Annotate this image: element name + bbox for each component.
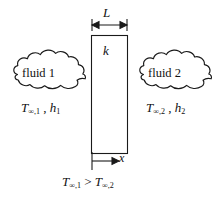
inequality-right-subscript: ∞,2: [102, 181, 114, 190]
temperature-inequality: T∞,1 > T∞,2: [62, 175, 114, 190]
fluid-1-label: fluid 1: [22, 67, 55, 80]
x-axis-arrow: [92, 152, 119, 170]
x-axis-label: x: [119, 152, 124, 164]
inequality-right-symbol: T: [95, 174, 102, 189]
thermal-conductivity-label: k: [103, 44, 109, 57]
dimension-line-L: [92, 19, 127, 31]
fluid-1-coefficient-subscript: 1: [56, 107, 60, 116]
fluid-2-separator: ,: [165, 100, 175, 115]
fluid-1-temperature-subscript: ∞,1: [28, 107, 40, 116]
fluid-2-coefficient-subscript: 2: [181, 107, 185, 116]
dimension-arrowhead-left: [92, 22, 99, 29]
heat-transfer-schematic: L k x fluid 1 fluid 2 T∞,1 , h1 T∞,2 , h…: [0, 0, 215, 201]
inequality-left-subscript: ∞,1: [69, 181, 81, 190]
fluid-2-temperature-subscript: ∞,2: [153, 107, 165, 116]
wall-thickness-label: L: [103, 6, 110, 19]
fluid-1-separator: ,: [40, 100, 50, 115]
x-axis-arrowhead: [112, 158, 119, 165]
fluid-1-conditions: T∞,1 , h1: [21, 101, 60, 116]
wall-rectangle: [92, 36, 128, 154]
fluid-2-conditions: T∞,2 , h2: [146, 101, 185, 116]
dimension-arrowhead-right: [120, 22, 127, 29]
fluid-2-label: fluid 2: [148, 67, 181, 80]
inequality-operator: >: [81, 174, 95, 189]
